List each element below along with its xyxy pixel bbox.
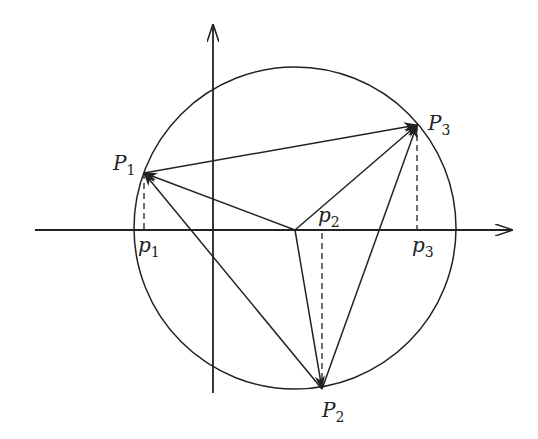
vector-P1-P3: [144, 125, 417, 173]
label-P1: P1: [112, 151, 135, 178]
label-P3: P3: [427, 111, 450, 138]
vector-P2-P1: [144, 173, 322, 389]
circle: [134, 67, 456, 389]
circumcircle: [134, 67, 456, 389]
label-p1: p1: [138, 233, 160, 260]
label-p2: p2: [318, 203, 340, 230]
label-p3: p3: [412, 233, 434, 260]
vector-P2-P3: [322, 125, 417, 389]
vector-center-P2: [295, 230, 322, 389]
diagram-canvas: P1P2P3p1p2p3: [0, 0, 538, 439]
vectors: [144, 125, 417, 389]
projection-lines: [144, 125, 417, 389]
axes: [35, 25, 512, 393]
point-labels: P1P2P3p1p2p3: [112, 111, 450, 425]
label-P2: P2: [321, 398, 344, 425]
